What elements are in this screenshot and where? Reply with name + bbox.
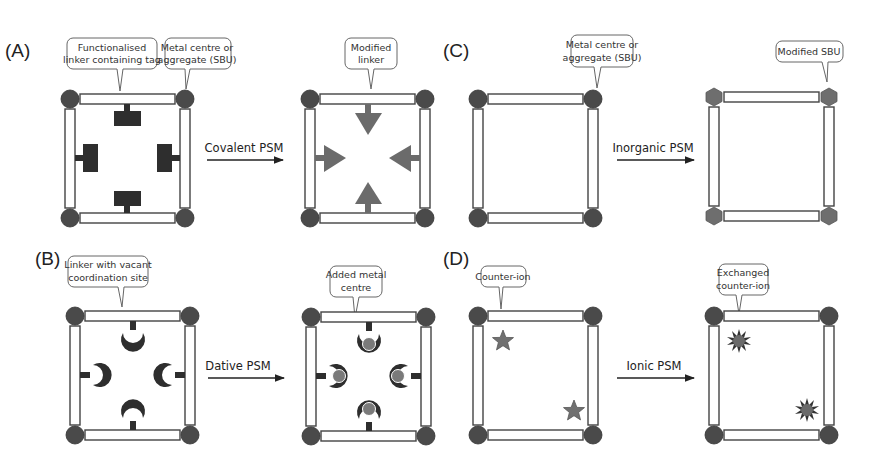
callout-added-metal: Added metal centre xyxy=(326,266,387,318)
panel-c: (C) Metal centre or aggregate (SBU) Inor… xyxy=(443,35,843,227)
svg-text:Exchanged: Exchanged xyxy=(717,267,769,278)
panel-d-label: (D) xyxy=(443,248,469,269)
panel-d: (D) Counter-ion Ionic PSM Exchanged coun… xyxy=(443,248,838,444)
svg-text:linker containing tag: linker containing tag xyxy=(63,54,161,65)
panel-b-label: (B) xyxy=(35,248,60,269)
callout-functionalised-linker: Functionalised linker containing tag xyxy=(63,38,161,91)
vacant-site-crescent-icon xyxy=(80,321,185,430)
callout-metal-centre-c: Metal centre or aggregate (SBU) xyxy=(563,35,642,88)
svg-text:Modified: Modified xyxy=(351,42,392,53)
svg-text:coordination site: coordination site xyxy=(68,272,148,283)
panel-a-label: (A) xyxy=(5,40,30,61)
svg-text:Metal centre or: Metal centre or xyxy=(161,42,233,53)
mof-frame-d-after xyxy=(705,307,838,444)
svg-text:linker: linker xyxy=(358,54,384,65)
mof-frame-a-after xyxy=(301,90,434,227)
mof-frame-c-after xyxy=(706,88,837,225)
arrow-inorganic-psm: Inorganic PSM xyxy=(612,141,694,160)
svg-text:Linker with vacant: Linker with vacant xyxy=(64,259,152,270)
svg-text:counter-ion: counter-ion xyxy=(716,280,770,291)
svg-text:Functionalised: Functionalised xyxy=(78,42,146,53)
mof-frame-b-after xyxy=(302,308,435,445)
panel-a: (A) Functionalised linker containing tag… xyxy=(5,38,434,227)
exchanged-ion-burst-icon xyxy=(727,329,819,422)
callout-counter-ion: Counter-ion xyxy=(475,266,530,309)
callout-modified-sbu: Modified SBU xyxy=(776,41,843,82)
added-metal-centre-icon xyxy=(316,322,421,431)
arrow-ionic-psm: Ionic PSM xyxy=(617,359,694,378)
svg-text:aggregate (SBU): aggregate (SBU) xyxy=(158,54,237,65)
panel-c-label: (C) xyxy=(443,40,469,61)
svg-text:Dative PSM: Dative PSM xyxy=(205,359,270,373)
tag-icon xyxy=(75,104,180,213)
svg-text:Ionic PSM: Ionic PSM xyxy=(626,359,681,373)
counter-ion-star-icon xyxy=(493,330,585,420)
svg-text:Modified SBU: Modified SBU xyxy=(777,46,840,57)
mof-frame-c-before xyxy=(469,90,602,227)
callout-metal-centre: Metal centre or aggregate (SBU) xyxy=(158,38,237,89)
panel-b: (B) Linker with vacant coordination site… xyxy=(35,248,435,445)
arrow-covalent-psm: Covalent PSM xyxy=(205,141,284,160)
svg-text:Counter-ion: Counter-ion xyxy=(475,271,530,282)
svg-text:Added metal: Added metal xyxy=(326,269,387,280)
mof-frame-d-before xyxy=(469,307,602,444)
modified-linker-icon xyxy=(315,104,420,213)
svg-text:Covalent PSM: Covalent PSM xyxy=(205,141,284,155)
svg-text:Metal centre or: Metal centre or xyxy=(566,39,638,50)
svg-text:aggregate (SBU): aggregate (SBU) xyxy=(563,52,642,63)
arrow-dative-psm: Dative PSM xyxy=(205,359,284,378)
psm-diagram: (A) Functionalised linker containing tag… xyxy=(0,0,876,462)
callout-vacant-linker: Linker with vacant coordination site xyxy=(64,256,152,307)
mof-frame-b-before xyxy=(66,307,199,444)
mof-frame-a-before xyxy=(61,90,194,227)
modified-sbu-hexagon-icon xyxy=(706,88,837,225)
callout-exchanged-ion: Exchanged counter-ion xyxy=(716,264,770,314)
svg-text:Inorganic PSM: Inorganic PSM xyxy=(612,141,693,155)
svg-text:centre: centre xyxy=(341,282,372,293)
callout-modified-linker: Modified linker xyxy=(345,38,397,89)
